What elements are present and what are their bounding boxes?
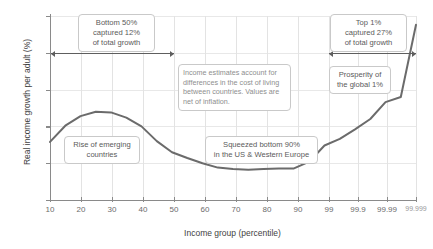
methodology-note: Income estimates account for differences… — [178, 64, 291, 111]
note-line-2: differences in the cost of living — [183, 78, 286, 88]
bottom-50-callout: Bottom 50% captured 12% of total growth — [78, 14, 155, 52]
note-line-4: net of inflation. — [183, 97, 286, 107]
squeezed-callout: Squeezed bottom 90% in the US & Western … — [205, 136, 318, 164]
prosperity-line-1: Prosperity of — [334, 70, 386, 80]
emerging-line-1: Rise of emerging — [69, 140, 135, 150]
bottom-50-line-1: Bottom 50% — [83, 18, 150, 28]
bottom-50-line-2: captured 12% — [83, 28, 150, 38]
squeezed-line-2: in the US & Western Europe — [210, 150, 313, 160]
prosperity-line-2: the global 1% — [334, 80, 386, 90]
note-line-1: Income estimates account for — [183, 68, 286, 78]
top-1-callout: Top 1% captured 27% of total growth — [330, 14, 407, 52]
prosperity-callout: Prosperity of the global 1% — [329, 66, 391, 94]
bottom-50-line-3: of total growth — [83, 38, 150, 48]
note-line-3: between countries. Values are — [183, 87, 286, 97]
squeezed-line-1: Squeezed bottom 90% — [210, 140, 313, 150]
bottom-50-span-arrow — [51, 53, 174, 54]
top-1-line-1: Top 1% — [335, 18, 402, 28]
top-1-line-3: of total growth — [335, 38, 402, 48]
elephant-curve-chart: Real income growth per adult (%) Income … — [0, 0, 433, 249]
rise-emerging-callout: Rise of emerging countries — [64, 136, 140, 164]
emerging-line-2: countries — [69, 150, 135, 160]
top-1-line-2: captured 27% — [335, 28, 402, 38]
top-1-span-arrow — [329, 53, 416, 54]
